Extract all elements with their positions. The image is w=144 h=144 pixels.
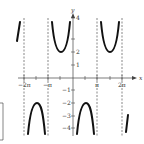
y-axis-arrow-icon (71, 13, 75, 18)
curve-lower-branch-1 (28, 103, 45, 134)
x-tick-label: −π (43, 81, 52, 88)
x-axis-label: x (139, 74, 143, 81)
y-tick-label: −2 (62, 99, 71, 106)
curve-upper-branch-1 (52, 22, 70, 52)
curve-branch-right-partial (126, 115, 128, 132)
curve-lower-branch-2 (77, 103, 94, 134)
graph-plot: y x −2π −π π 2π 4 2 1 −1 −2 −3 −4 (0, 0, 144, 144)
x-tick-label: −2π (18, 81, 31, 88)
x-axis-arrow-icon (132, 76, 137, 80)
x-tick-label: 2π (118, 81, 126, 88)
y-tick-label: 4 (76, 14, 80, 21)
curve-upper-branch-2 (101, 22, 119, 52)
y-tick-label: −1 (62, 86, 71, 93)
y-tick-label: 1 (76, 61, 80, 68)
y-tick-label: −4 (62, 124, 71, 131)
curve-branch-left-partial (17, 22, 20, 41)
x-tick-label: π (95, 81, 99, 88)
y-tick-label: −3 (62, 112, 71, 119)
partial-frame (0, 103, 3, 140)
y-axis-label: y (70, 6, 75, 14)
y-tick-label: 2 (76, 48, 80, 55)
